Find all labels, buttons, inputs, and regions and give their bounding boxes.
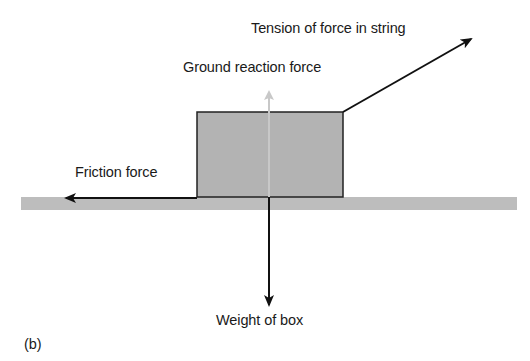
weight-label: Weight of box	[216, 312, 303, 328]
tension-arrow	[343, 39, 471, 112]
tension-label: Tension of force in string	[251, 20, 406, 36]
figure-label: (b)	[24, 336, 41, 352]
diagram-canvas	[0, 0, 530, 361]
friction-label: Friction force	[75, 164, 157, 180]
free-body-diagram: Tension of force in string Ground reacti…	[0, 0, 530, 361]
ground-reaction-label: Ground reaction force	[183, 59, 321, 75]
